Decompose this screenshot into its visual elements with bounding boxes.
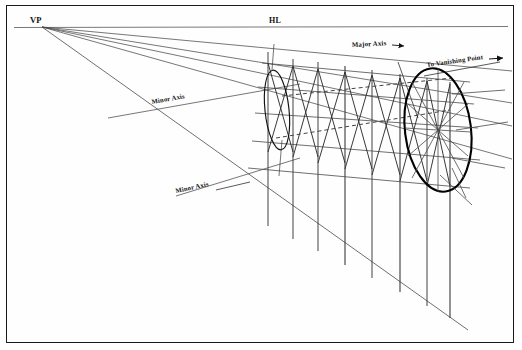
- label-minor-axis-upper: Minor Axis: [151, 92, 186, 105]
- stub-mid: [456, 122, 508, 130]
- to-vanishing-point-arrow-icon: [489, 58, 503, 59]
- label-minor-axis-lower: Minor Axis: [175, 180, 210, 194]
- leader-minor-axis-lower: [216, 182, 250, 190]
- rail-center: [255, 113, 478, 128]
- ray-ground: [42, 27, 468, 330]
- ellipse-center-radials: [405, 68, 471, 192]
- stub-foot: [440, 175, 472, 205]
- minor-axis-line-lower: [176, 158, 300, 196]
- minor-axis-line-upper: [108, 84, 300, 118]
- label-vanishing-point: VP: [30, 15, 42, 25]
- stub-foot2: [452, 168, 466, 198]
- perspective-drawing: VP HL Minor Axis Minor Axis Major Axis T…: [0, 0, 522, 350]
- major-axis-arrow-icon: [392, 45, 404, 46]
- vertical-leader-top: [272, 44, 274, 70]
- label-major-axis: Major Axis: [352, 39, 387, 48]
- rail-bottom: [248, 168, 470, 188]
- diagram-page: VP HL Minor Axis Minor Axis Major Axis T…: [0, 0, 522, 350]
- ray-center: [42, 27, 512, 126]
- horizon-line-group: [14, 27, 508, 28]
- label-horizon-line: HL: [269, 16, 281, 25]
- ray-lower-mid: [42, 27, 512, 159]
- horizon-line: [14, 27, 508, 28]
